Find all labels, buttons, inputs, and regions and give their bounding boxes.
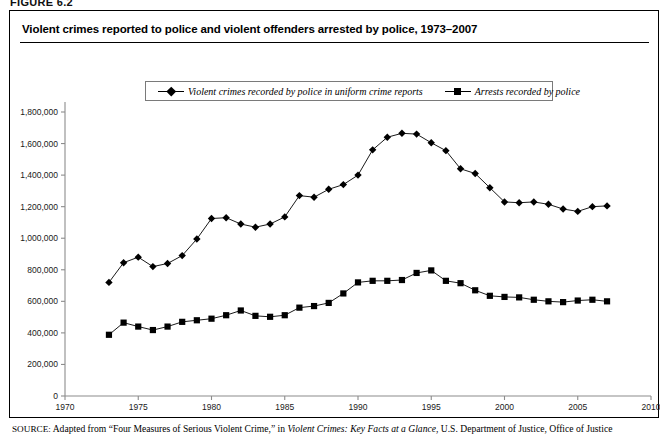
data-point-diamond: [398, 130, 405, 137]
data-point-diamond: [266, 220, 273, 227]
data-point-square: [267, 314, 273, 320]
source-text-1: Adapted from “Four Measures of Serious V…: [51, 423, 288, 434]
data-point-diamond: [135, 253, 142, 260]
data-point-square: [326, 300, 332, 306]
data-point-diamond: [515, 199, 522, 206]
data-point-diamond: [222, 214, 229, 221]
source-keyword: SOURCE:: [12, 424, 51, 434]
data-point-square: [106, 332, 112, 338]
x-tick-label: 1990: [349, 402, 368, 412]
data-point-square: [355, 279, 361, 285]
data-point-diamond: [237, 220, 244, 227]
data-point-square: [414, 270, 420, 276]
data-point-square: [428, 267, 434, 273]
data-point-square: [121, 320, 127, 326]
data-point-square: [457, 280, 463, 286]
data-point-diamond: [208, 215, 215, 222]
x-tick-label: 1975: [129, 402, 148, 412]
data-point-square: [531, 297, 537, 303]
data-point-square: [384, 278, 390, 284]
data-point-square: [223, 312, 229, 318]
data-point-square: [487, 293, 493, 299]
data-point-square: [179, 319, 185, 325]
x-tick-label: 2000: [495, 402, 514, 412]
data-point-diamond: [574, 208, 581, 215]
x-tick-label: 2010: [642, 402, 660, 412]
y-tick-label: 0: [53, 391, 58, 401]
chart-svg: 0200,000400,000600,000800,0001,000,0001,…: [10, 11, 660, 419]
x-tick-label: 1970: [56, 402, 75, 412]
data-point-square: [604, 298, 610, 304]
data-series: [105, 130, 611, 338]
plot-area: 0200,000400,000600,000800,0001,000,0001,…: [10, 11, 660, 419]
data-point-diamond: [325, 186, 332, 193]
data-point-diamond: [428, 139, 435, 146]
data-point-square: [252, 313, 258, 319]
data-point-square: [164, 323, 170, 329]
data-point-square: [282, 312, 288, 318]
series-arrests: [106, 267, 610, 338]
data-point-square: [501, 294, 507, 300]
data-point-diamond: [589, 203, 596, 210]
y-tick-label: 1,800,000: [20, 107, 58, 117]
y-tick-label: 200,000: [27, 359, 58, 369]
data-point-square: [296, 305, 302, 311]
data-point-diamond: [281, 213, 288, 220]
data-point-diamond: [120, 259, 127, 266]
data-point-square: [238, 307, 244, 313]
data-point-square: [443, 278, 449, 284]
x-tick-label: 1980: [202, 402, 221, 412]
data-point-square: [208, 316, 214, 322]
data-point-square: [575, 297, 581, 303]
y-tick-label: 800,000: [27, 265, 58, 275]
data-point-diamond: [105, 279, 112, 286]
y-axis: 0200,000400,000600,000800,0001,000,0001,…: [20, 102, 65, 401]
data-point-diamond: [149, 263, 156, 270]
data-point-diamond: [296, 192, 303, 199]
source-publication-title: Violent Crimes: Key Facts at a Glance: [287, 423, 436, 434]
data-point-diamond: [354, 171, 361, 178]
figure-container: Violent crimes reported to police and vi…: [9, 10, 659, 418]
series-violent-crimes: [105, 130, 611, 287]
data-point-diamond: [603, 202, 610, 209]
data-point-diamond: [545, 201, 552, 208]
y-tick-label: 1,600,000: [20, 139, 58, 149]
y-tick-label: 400,000: [27, 328, 58, 338]
data-point-square: [516, 294, 522, 300]
data-point-diamond: [340, 181, 347, 188]
figure-label: FIGURE 6.2: [10, 0, 73, 8]
data-point-square: [589, 297, 595, 303]
data-point-square: [545, 298, 551, 304]
data-point-square: [311, 303, 317, 309]
data-point-diamond: [252, 223, 259, 230]
data-point-diamond: [530, 198, 537, 205]
source-text-2: , U.S. Department of Justice, Office of …: [436, 423, 612, 434]
data-point-diamond: [559, 205, 566, 212]
y-tick-label: 600,000: [27, 296, 58, 306]
data-point-square: [399, 277, 405, 283]
x-axis: 197019751980198519901995200020052010: [56, 396, 660, 412]
series-line: [109, 133, 607, 282]
x-tick-label: 2005: [568, 402, 587, 412]
data-point-square: [560, 299, 566, 305]
source-note: SOURCE: Adapted from “Four Measures of S…: [12, 423, 612, 435]
data-point-square: [472, 287, 478, 293]
y-tick-label: 1,400,000: [20, 170, 58, 180]
y-tick-label: 1,200,000: [20, 202, 58, 212]
x-tick-label: 1995: [422, 402, 441, 412]
data-point-square: [370, 278, 376, 284]
data-point-diamond: [310, 194, 317, 201]
data-point-diamond: [413, 130, 420, 137]
data-point-square: [135, 323, 141, 329]
data-point-square: [194, 317, 200, 323]
data-point-diamond: [164, 260, 171, 267]
data-point-square: [150, 327, 156, 333]
y-tick-label: 1,000,000: [20, 233, 58, 243]
data-point-square: [340, 290, 346, 296]
x-tick-label: 1985: [275, 402, 294, 412]
